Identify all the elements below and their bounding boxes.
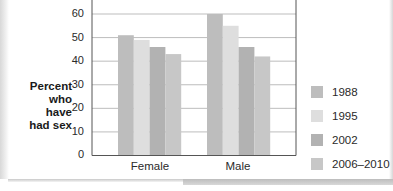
x-category-male: Male xyxy=(198,160,278,172)
x-category-female: Female xyxy=(110,160,190,172)
y-tick-60: 60 xyxy=(64,7,84,19)
y-tick-10: 10 xyxy=(64,125,84,137)
page-edge-shadow-dark xyxy=(183,179,393,185)
legend-item-1988: 1988 xyxy=(311,85,358,99)
legend-item-2006-2010: 2006–2010 xyxy=(311,157,390,171)
bar-male-1995 xyxy=(223,26,239,156)
legend-label: 1995 xyxy=(332,110,358,122)
legend-label: 2006–2010 xyxy=(332,158,390,170)
legend-swatch-icon xyxy=(311,110,323,122)
legend-label: 1988 xyxy=(332,86,358,98)
y-tick-0: 0 xyxy=(64,148,84,160)
bar-male-1988 xyxy=(207,14,223,156)
legend-swatch-icon xyxy=(311,134,323,146)
page-bottom-edge xyxy=(0,179,393,191)
bar-female-2006–2010 xyxy=(165,54,181,155)
page-edge-shadow xyxy=(8,179,183,182)
legend-swatch-icon xyxy=(311,86,323,98)
bar-female-1995 xyxy=(134,40,150,156)
legend-item-2002: 2002 xyxy=(311,133,358,147)
bar-female-2002 xyxy=(150,47,166,155)
bar-male-2002 xyxy=(239,47,255,155)
y-tick-50: 50 xyxy=(64,31,84,43)
legend-item-1995: 1995 xyxy=(311,109,358,123)
legend-label: 2002 xyxy=(332,134,358,146)
bar-female-1988 xyxy=(118,35,134,155)
y-tick-30: 30 xyxy=(64,78,84,90)
bar-male-2006–2010 xyxy=(254,56,270,155)
y-tick-20: 20 xyxy=(64,101,84,113)
y-tick-40: 40 xyxy=(64,54,84,66)
legend-swatch-icon xyxy=(311,158,323,170)
